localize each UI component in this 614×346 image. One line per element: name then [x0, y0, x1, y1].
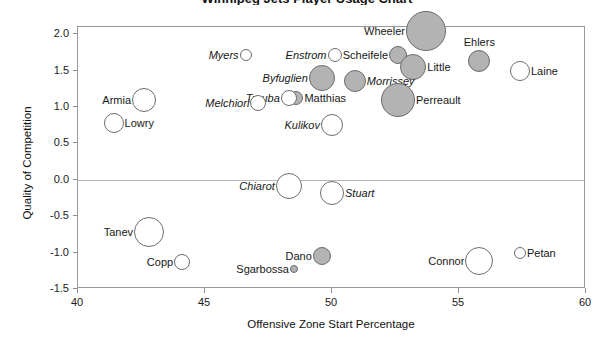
bubble-petan[interactable] — [514, 247, 526, 259]
x-tick-mark — [331, 288, 332, 293]
x-tick-label: 45 — [198, 297, 210, 308]
y-tick-label: -1.5 — [31, 283, 69, 294]
bubble-dano[interactable] — [313, 247, 331, 265]
point-label-connor: Connor — [428, 256, 464, 267]
bubble-myers[interactable] — [240, 49, 252, 61]
y-tick-label: 2.0 — [31, 28, 69, 39]
bubble-stuart[interactable] — [320, 181, 344, 205]
player-usage-chart: Winnipeg Jets Player Usage Chart Quality… — [0, 0, 614, 346]
point-label-petan: Petan — [527, 247, 556, 258]
point-label-perreault: Perreault — [416, 94, 461, 105]
bubble-enstrom[interactable] — [328, 48, 342, 62]
point-label-little: Little — [427, 62, 450, 73]
bubble-armia[interactable] — [132, 88, 156, 112]
bubble-lowry[interactable] — [104, 113, 124, 133]
point-label-wheeler: Wheeler — [364, 26, 405, 37]
plot-area: WheelerEhlersScheifeleLittleLaineMyersEn… — [77, 26, 585, 288]
bubble-kulikov[interactable] — [321, 114, 343, 136]
point-label-byfuglien: Byfuglien — [263, 72, 308, 83]
point-label-kulikov: Kulikov — [285, 120, 320, 131]
point-label-sgarbossa: Sgarbossa — [236, 263, 289, 274]
x-tick-mark — [458, 288, 459, 293]
y-tick-label: 1.0 — [31, 101, 69, 112]
y-tick-mark — [73, 215, 77, 216]
bubble-ehlers[interactable] — [468, 50, 490, 72]
x-axis-title: Offensive Zone Start Percentage — [77, 318, 585, 330]
x-tick-mark — [77, 288, 78, 293]
y-tick-mark — [73, 252, 77, 253]
y-tick-mark — [73, 142, 77, 143]
y-tick-mark — [73, 70, 77, 71]
bubble-morrissey[interactable] — [344, 70, 366, 92]
point-label-copp: Copp — [147, 257, 173, 268]
y-tick-label: 1.5 — [31, 64, 69, 75]
x-tick-mark — [585, 288, 586, 293]
point-label-melchiori: Melchiori — [205, 98, 249, 109]
bubble-sgarbossa[interactable] — [290, 265, 298, 273]
point-label-myers: Myers — [209, 49, 239, 60]
point-label-dano: Dano — [286, 251, 312, 262]
y-tick-label: -1.0 — [31, 246, 69, 257]
y-tick-mark — [73, 179, 77, 180]
bubble-connor[interactable] — [465, 247, 493, 275]
point-label-matthias: Matthias — [304, 93, 346, 104]
y-tick-label: 0.5 — [31, 137, 69, 148]
bubble-melchiori[interactable] — [250, 95, 266, 111]
x-tick-label: 50 — [325, 297, 337, 308]
y-tick-mark — [73, 33, 77, 34]
bubble-byfuglien[interactable] — [309, 65, 335, 91]
y-tick-label: 0.0 — [31, 173, 69, 184]
point-label-scheifele: Scheifele — [343, 49, 388, 60]
bubble-laine[interactable] — [510, 61, 530, 81]
point-label-armia: Armia — [102, 94, 131, 105]
y-tick-label: -0.5 — [31, 210, 69, 221]
x-tick-label: 55 — [452, 297, 464, 308]
x-tick-label: 60 — [579, 297, 591, 308]
chart-title: Winnipeg Jets Player Usage Chart — [0, 0, 614, 5]
bubble-copp[interactable] — [174, 254, 190, 270]
bubble-wheeler[interactable] — [406, 11, 446, 51]
y-tick-mark — [73, 106, 77, 107]
point-label-laine: Laine — [531, 65, 558, 76]
point-label-stuart: Stuart — [345, 187, 374, 198]
point-label-tanev: Tanev — [104, 227, 133, 238]
point-label-enstrom: Enstrom — [286, 49, 327, 60]
bubble-perreault[interactable] — [381, 83, 415, 117]
bubble-chiarot[interactable] — [276, 173, 302, 199]
x-tick-mark — [204, 288, 205, 293]
y-axis-title: Quality of Competition — [21, 63, 33, 263]
point-label-chiarot: Chiarot — [239, 180, 274, 191]
bubble-tanev[interactable] — [134, 217, 164, 247]
point-label-lowry: Lowry — [125, 118, 154, 129]
point-label-ehlers: Ehlers — [464, 37, 495, 48]
x-tick-label: 40 — [71, 297, 83, 308]
